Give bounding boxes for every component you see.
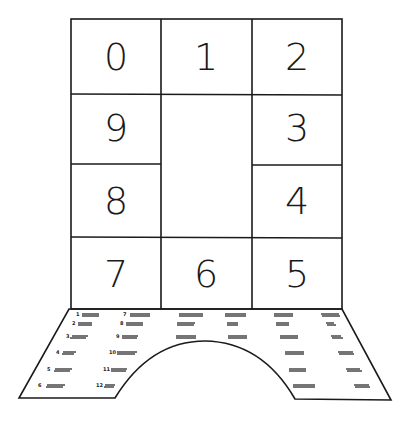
svg-text:8: 8: [120, 320, 124, 326]
cell-2: 2: [285, 35, 309, 79]
cell-9: 9: [104, 106, 128, 150]
cell-0: 0: [104, 35, 128, 79]
cell-5: 5: [285, 252, 309, 296]
cell-3: 3: [285, 106, 309, 150]
svg-text:12: 12: [96, 382, 103, 388]
svg-text:10: 10: [109, 349, 116, 355]
number-board-diagram: 0 1 2 9 3 8 4 7 6 5 1 2 3 4 5 6 7 8 9 10…: [0, 0, 417, 423]
svg-text:1: 1: [76, 311, 80, 317]
svg-text:6: 6: [38, 382, 42, 388]
cell-1: 1: [194, 35, 218, 79]
cell-7: 7: [104, 252, 128, 296]
svg-text:4: 4: [56, 349, 60, 355]
svg-text:9: 9: [116, 333, 120, 339]
cell-4: 4: [285, 179, 309, 223]
cell-6: 6: [194, 252, 218, 296]
svg-text:3: 3: [66, 333, 70, 339]
svg-text:5: 5: [47, 366, 51, 372]
svg-text:2: 2: [72, 320, 76, 326]
svg-text:11: 11: [103, 366, 110, 372]
cell-8: 8: [104, 179, 128, 223]
base-dash-lines: [46, 314, 370, 387]
svg-text:7: 7: [123, 311, 127, 317]
